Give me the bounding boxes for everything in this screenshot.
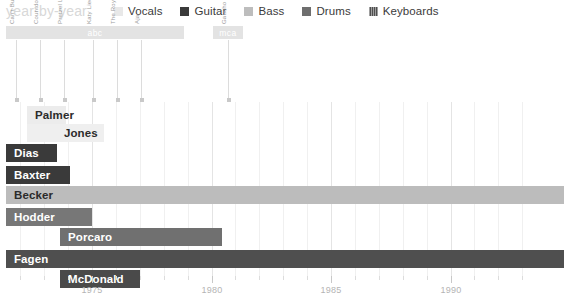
- axis-tick-major: [331, 276, 332, 283]
- axis-tick-label: 1975: [81, 285, 102, 295]
- legend-swatch-icon: [180, 7, 189, 16]
- axis-tick-minor: [355, 276, 356, 280]
- album-title: Katy Lied: [86, 0, 92, 24]
- legend-item-label: Keyboards: [383, 5, 439, 17]
- member-name-label: Jones: [60, 124, 102, 142]
- member-name-label: Fagen: [10, 250, 52, 268]
- album-title: Can't Buy a Thrill: [9, 0, 15, 24]
- timeline-row: Porcaro: [0, 228, 564, 246]
- legend: VocalsGuitarBassDrumsKeyboards: [114, 4, 457, 18]
- legend-item-keyboards[interactable]: Keyboards: [369, 5, 439, 17]
- legend-swatch-icon: [369, 7, 378, 16]
- axis-tick-minor: [259, 276, 260, 280]
- record-label-bars: abcmca: [0, 26, 564, 40]
- axis-tick-major: [212, 276, 213, 283]
- timeline-row: Jones: [0, 124, 564, 142]
- timeline-row: Becker: [0, 186, 564, 204]
- member-name-label: Becker: [10, 186, 57, 204]
- axis-tick-minor: [164, 276, 165, 280]
- member-name-label: Dias: [10, 144, 43, 162]
- timeline-row: Palmer: [0, 106, 564, 124]
- axis-tick-minor: [307, 276, 308, 280]
- timeline-row: Dias: [0, 144, 564, 162]
- axis-tick-major: [451, 276, 452, 283]
- timeline-row: Fagen: [0, 250, 564, 268]
- axis-tick-minor: [427, 276, 428, 280]
- record-label-name: mca: [219, 28, 236, 38]
- axis-tick-minor: [20, 276, 21, 280]
- timeline-bar-fagen[interactable]: [6, 250, 564, 268]
- album-stem-line: [64, 40, 65, 100]
- album-stem-line: [16, 40, 17, 100]
- album-stem-line: [141, 40, 142, 100]
- album-markers: Can't Buy a ThrillCountdown to EcstasyPr…: [0, 40, 564, 102]
- legend-item-drums[interactable]: Drums: [302, 5, 350, 17]
- axis-tick-label: 1980: [201, 285, 222, 295]
- record-label-name: abc: [88, 28, 103, 38]
- timeline-bar-becker[interactable]: [6, 186, 564, 204]
- chart-header: year-by-year VocalsGuitarBassDrumsKeyboa…: [0, 0, 564, 24]
- axis-tick-minor: [522, 276, 523, 280]
- axis-tick-minor: [403, 276, 404, 280]
- member-name-label: Baxter: [10, 166, 54, 184]
- year-by-year-chart: year-by-year VocalsGuitarBassDrumsKeyboa…: [0, 0, 564, 306]
- album-title: Gaucho: [221, 2, 227, 24]
- axis-tick-minor: [283, 276, 284, 280]
- axis-tick-minor: [379, 276, 380, 280]
- axis-tick-minor: [140, 276, 141, 280]
- legend-item-guitar[interactable]: Guitar: [180, 5, 226, 17]
- album-title: The Royal Scam: [110, 0, 116, 24]
- album-stem-line: [93, 40, 94, 100]
- album-stem-line: [117, 40, 118, 100]
- album-title: Aja: [134, 15, 140, 24]
- member-name-label: Hodder: [10, 208, 59, 226]
- album-title: Countdown to Ecstasy: [33, 0, 39, 24]
- legend-swatch-icon: [244, 7, 253, 16]
- legend-item-bass[interactable]: Bass: [244, 5, 284, 17]
- album-stem-line: [40, 40, 41, 100]
- record-label-bar-abc[interactable]: abc: [6, 26, 184, 39]
- x-axis: 1975198019851990: [0, 276, 564, 306]
- axis-tick-minor: [44, 276, 45, 280]
- axis-tick-label: 1990: [440, 285, 461, 295]
- legend-item-label: Drums: [316, 5, 350, 17]
- axis-tick-minor: [116, 276, 117, 280]
- axis-tick-minor: [235, 276, 236, 280]
- axis-tick-minor: [68, 276, 69, 280]
- timeline-row: Baxter: [0, 166, 564, 184]
- album-title: Pretzel Logic: [57, 0, 63, 24]
- timeline-row: Hodder: [0, 208, 564, 226]
- timeline-plot: PalmerJonesDiasBaxterBeckerHodderPorcaro…: [0, 102, 564, 276]
- axis-tick-minor: [188, 276, 189, 280]
- axis-tick-major: [92, 276, 93, 283]
- record-label-bar-mca[interactable]: mca: [213, 26, 243, 39]
- axis-tick-minor: [474, 276, 475, 280]
- legend-item-label: Bass: [258, 5, 284, 17]
- member-name-label: Porcaro: [64, 228, 116, 246]
- legend-swatch-icon: [302, 7, 311, 16]
- member-name-label: Palmer: [31, 106, 78, 124]
- axis-tick-minor: [498, 276, 499, 280]
- page-title: year-by-year: [6, 3, 87, 19]
- axis-tick-label: 1985: [320, 285, 341, 295]
- album-stem-line: [228, 40, 229, 100]
